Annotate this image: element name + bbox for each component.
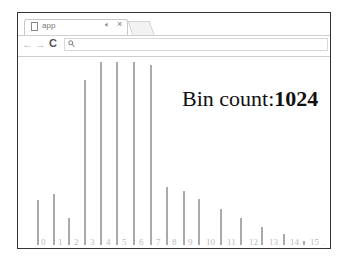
bin-label: 7	[156, 237, 161, 247]
close-icon[interactable]: ×	[117, 19, 122, 29]
bin-label: 12	[249, 237, 258, 247]
histogram-bar	[261, 227, 263, 245]
bin-label: 8	[172, 237, 177, 247]
page-content: Bin count:1024 0123456789101112131415 .	[18, 56, 330, 248]
trailing-dot: .	[323, 237, 325, 247]
bin-label: 6	[139, 237, 144, 247]
bin-count-value: 1024	[274, 86, 318, 111]
histogram-bar	[166, 187, 168, 245]
histogram-bar	[240, 218, 242, 245]
bin-label: 9	[188, 237, 193, 247]
histogram-bar	[220, 209, 222, 245]
histogram-bar	[303, 241, 305, 245]
search-icon	[68, 40, 75, 50]
histogram-bar	[37, 200, 39, 245]
bin-label: 3	[90, 237, 95, 247]
histogram-bar	[198, 199, 200, 245]
histogram-bar	[53, 194, 55, 245]
histogram-bar	[84, 80, 86, 245]
bin-label: 13	[269, 237, 278, 247]
new-tab-button[interactable]	[127, 21, 154, 35]
bin-label: 15	[310, 237, 319, 247]
bin-label: 5	[122, 237, 127, 247]
page-icon	[31, 22, 38, 31]
reload-icon[interactable]: C	[49, 37, 57, 49]
tab-app[interactable]: app 🔈︎ ×	[24, 19, 128, 35]
forward-icon[interactable]: →	[35, 38, 46, 50]
histogram-bar	[283, 234, 285, 245]
address-bar[interactable]	[64, 38, 328, 51]
bin-count-label: Bin count:	[182, 86, 274, 111]
back-icon[interactable]: ←	[22, 38, 33, 50]
bin-label: 0	[41, 237, 46, 247]
tab-title: app	[42, 21, 55, 30]
bin-label: 10	[206, 237, 215, 247]
bin-label: 4	[106, 237, 111, 247]
bin-label: 14	[290, 237, 299, 247]
histogram-bar	[68, 218, 70, 245]
bin-label: 1	[58, 237, 63, 247]
histogram-bar	[116, 62, 118, 245]
toolbar: ← → C	[18, 35, 330, 57]
bin-label: 11	[227, 237, 236, 247]
tab-strip: app 🔈︎ ×	[18, 13, 330, 35]
histogram-bar	[100, 62, 102, 245]
histogram-bar	[133, 62, 135, 245]
histogram-bar	[183, 191, 185, 245]
bin-label: 2	[74, 237, 79, 247]
bin-count-text: Bin count:1024	[182, 86, 318, 112]
browser-window: app 🔈︎ × ← → C Bin count:1024 0123456789…	[17, 12, 331, 249]
histogram-bar	[150, 65, 152, 245]
speaker-icon[interactable]: 🔈︎	[105, 20, 110, 30]
